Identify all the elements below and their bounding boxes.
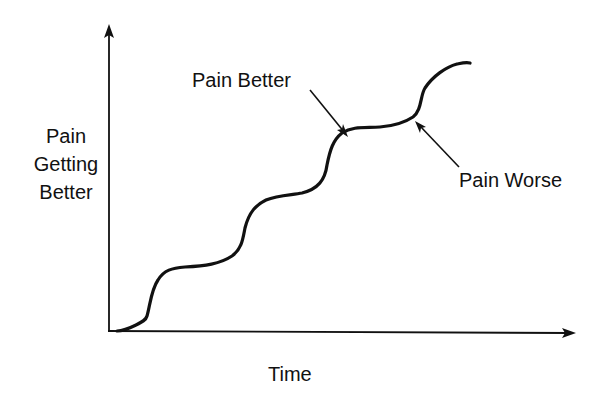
y-axis-label: Pain Getting Better (20, 122, 112, 206)
annotation-pain-worse-arrow (415, 121, 459, 167)
annotation-pain-better-arrow (310, 90, 348, 137)
x-axis (108, 328, 576, 338)
x-axis-label: Time (268, 362, 312, 386)
y-axis-label-line-3: Better (20, 178, 112, 206)
y-axis-label-line-1: Pain (20, 122, 112, 150)
annotation-pain-worse: Pain Worse (459, 168, 562, 192)
recovery-curve (117, 63, 470, 331)
y-axis-label-line-2: Getting (20, 150, 112, 178)
annotation-pain-better: Pain Better (192, 68, 291, 92)
